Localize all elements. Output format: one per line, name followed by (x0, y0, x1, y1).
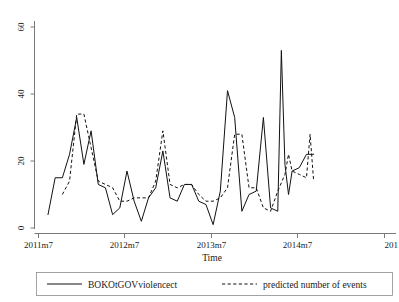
x-axis-title: Time (202, 253, 222, 263)
x-tick-label-2015m7-clipped: 201 (385, 240, 399, 250)
line-chart-canvas: 60 40 20 0 2011m7 2012m7 2013m7 2014m7 2… (0, 0, 399, 302)
x-axis: 2011m7 2012m7 2013m7 2014m7 201 Time (24, 234, 398, 264)
x-tick-label-2011m7: 2011m7 (24, 240, 54, 250)
legend-label-predicted: predicted number of events (263, 280, 367, 290)
x-tick-label-2014m7: 2014m7 (283, 240, 313, 250)
chart-figure: 60 40 20 0 2011m7 2012m7 2013m7 2014m7 2… (0, 0, 399, 302)
series-line-bokotgovviolencect (48, 50, 314, 224)
series-group (48, 50, 314, 224)
y-tick-label-40: 40 (16, 89, 26, 99)
x-tick-label-2012m7: 2012m7 (110, 240, 140, 250)
y-tick-label-20: 20 (16, 156, 26, 166)
y-tick-label-60: 60 (16, 22, 26, 32)
y-axis: 60 40 20 0 (16, 21, 34, 230)
x-tick-label-2013m7: 2013m7 (197, 240, 227, 250)
series-line-predicted-number-of-events (62, 114, 313, 211)
legend-label-observed: BOKOtGOVviolencect (88, 280, 178, 290)
y-tick-label-0: 0 (16, 225, 26, 230)
chart-legend: BOKOtGOVviolencect predicted number of e… (37, 273, 393, 296)
